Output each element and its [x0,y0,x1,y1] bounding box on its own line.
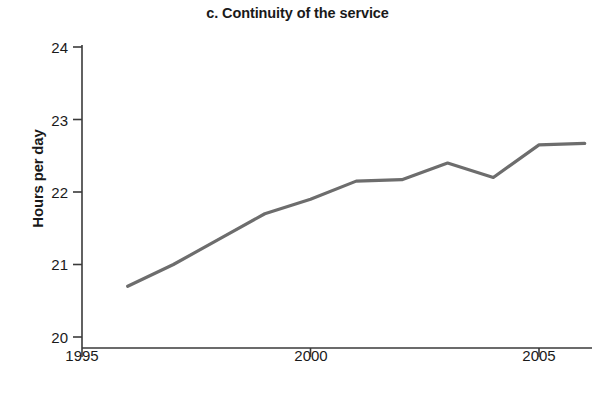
y-tick-marks [73,47,82,337]
axis-spines [82,45,592,348]
chart-figure: c. Continuity of the service Hours per d… [0,0,595,407]
data-series-line [128,143,585,286]
plot-area [0,0,595,407]
x-tick-marks [82,348,539,357]
